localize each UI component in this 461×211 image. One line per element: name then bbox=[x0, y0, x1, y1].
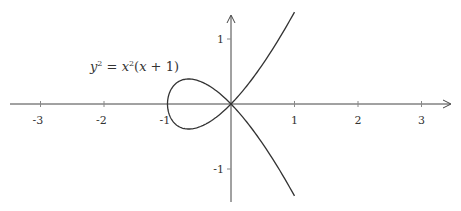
x-ticks: -3-2-1123 bbox=[33, 101, 426, 127]
y-tick-label: -1 bbox=[213, 163, 224, 176]
x-tick-label: 3 bbox=[418, 114, 425, 127]
x-tick-label: -1 bbox=[160, 114, 171, 127]
y-tick-label: 1 bbox=[217, 33, 224, 46]
y-axis bbox=[227, 15, 235, 202]
chart-canvas: -3-2-1123 1-1 y2 = x2(x + 1) bbox=[0, 0, 461, 211]
equation-annotation: y2 = x2(x + 1) bbox=[89, 59, 179, 74]
x-tick-label: 2 bbox=[355, 114, 362, 127]
x-tick-label: -3 bbox=[33, 114, 44, 127]
x-tick-label: -2 bbox=[96, 114, 107, 127]
x-tick-label: 1 bbox=[291, 114, 298, 127]
